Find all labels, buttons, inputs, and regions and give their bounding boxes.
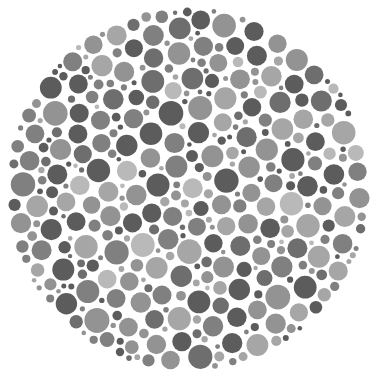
dot [240, 17, 246, 23]
dot [159, 101, 184, 126]
dot [77, 259, 85, 267]
dot [332, 121, 356, 145]
dot [323, 220, 335, 232]
dot [254, 290, 262, 298]
dot [143, 25, 164, 46]
dot [33, 220, 40, 227]
dot [32, 240, 52, 260]
dot [215, 344, 220, 349]
dot [31, 263, 45, 277]
dot [107, 25, 127, 45]
dot [204, 68, 209, 73]
dot [237, 127, 257, 147]
dot [126, 185, 147, 206]
dot [74, 145, 92, 163]
dot [125, 39, 143, 57]
dot [160, 197, 169, 206]
dot [63, 52, 82, 71]
dot [320, 235, 329, 244]
dot [98, 270, 117, 289]
dot [335, 254, 340, 259]
dot [227, 134, 232, 139]
dot [252, 79, 258, 85]
dot [314, 123, 319, 128]
dot [82, 331, 87, 336]
dot [83, 196, 100, 213]
dot [145, 310, 164, 329]
dot [203, 316, 223, 336]
dot [213, 281, 227, 295]
dot [338, 93, 343, 98]
dot [184, 91, 190, 97]
dot [120, 196, 125, 201]
dot [298, 326, 303, 331]
dot [162, 326, 167, 331]
dot [110, 129, 118, 137]
dot [158, 229, 179, 250]
dot [348, 145, 364, 161]
dot [293, 132, 304, 143]
dot [131, 259, 144, 272]
dot-plate [0, 0, 373, 378]
dot [243, 119, 248, 124]
dot [84, 36, 102, 54]
dot [213, 257, 234, 278]
dot [144, 284, 152, 292]
dot [280, 192, 303, 215]
dot [47, 164, 67, 184]
dot [76, 280, 99, 303]
dot [193, 329, 202, 338]
dot [141, 148, 161, 168]
dot [265, 174, 283, 192]
dot [265, 285, 290, 310]
dot [100, 206, 120, 226]
dot [244, 330, 249, 335]
dot [270, 92, 291, 113]
dot [233, 124, 239, 130]
dot [11, 172, 35, 196]
dot [186, 210, 193, 217]
dot [226, 37, 244, 55]
dot [103, 89, 124, 110]
dot [112, 311, 122, 321]
dot [176, 291, 186, 301]
dot [173, 74, 179, 80]
dot [58, 241, 70, 253]
dot [46, 137, 51, 142]
dot [146, 96, 159, 109]
dot [141, 70, 164, 93]
dot [68, 254, 72, 258]
dot [253, 266, 257, 270]
dot [171, 191, 181, 201]
dot [242, 184, 260, 202]
dot [193, 280, 200, 287]
dot [183, 8, 192, 17]
dot [210, 225, 215, 230]
dot [345, 111, 351, 117]
dot [328, 84, 338, 94]
dot [141, 277, 146, 282]
dot [339, 154, 347, 162]
dot [142, 204, 161, 223]
dot [251, 323, 259, 331]
dot [91, 111, 110, 130]
dot [149, 224, 159, 234]
dot [298, 171, 303, 176]
dot [58, 64, 63, 69]
dot [188, 345, 212, 369]
dot [289, 173, 295, 179]
dot [116, 348, 124, 356]
dot [41, 219, 62, 240]
dot [325, 79, 330, 84]
dot [229, 358, 236, 365]
dot [206, 217, 212, 223]
dot [61, 214, 66, 219]
dot [44, 278, 56, 290]
dot [118, 124, 123, 129]
dot [132, 80, 137, 85]
dot [247, 46, 267, 66]
dot [311, 91, 332, 112]
dot [313, 197, 331, 215]
dot [294, 276, 317, 299]
dot [117, 161, 137, 181]
